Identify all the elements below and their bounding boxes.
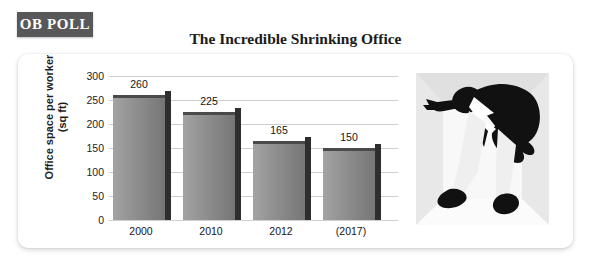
bar-group: 150(2017) [323,76,381,220]
bar-side-3d [165,91,171,220]
y-tick-label: 50 [64,190,104,202]
bar-value-label: 225 [183,95,235,107]
y-tick-label: 250 [64,94,104,106]
infographic-screen: OB POLL The Incredible Shrinking Office … [0,0,591,271]
bar-value-label: 150 [323,131,375,143]
y-tick-label: 200 [64,118,104,130]
bar-group: 2602000 [113,76,171,220]
bar-side-3d [305,137,311,220]
plot-area: 3002502001501005002602000225201016520121… [109,76,398,220]
office-illustration [412,67,553,235]
x-tick-label: 2000 [109,225,173,237]
poll-badge: OB POLL [17,12,93,37]
x-tick-label: 2010 [179,225,243,237]
y-tick-label: 100 [64,166,104,178]
x-tick-label: (2017) [319,225,383,237]
bar-side-3d [235,108,241,220]
bar-group: 1652012 [253,76,311,220]
y-tick-label: 0 [64,214,104,226]
bar-side-3d [375,144,381,220]
bar-value-label: 165 [253,124,305,136]
bar-2012 [253,141,305,220]
gridline [109,220,398,221]
bar-2000 [113,95,165,220]
chart-card: Office space per worker (sq ft) 30025020… [18,54,573,248]
y-tick-label: 150 [64,142,104,154]
y-axis-title-line1: Office space per worker [43,42,56,192]
bar-group: 2252010 [183,76,241,220]
bar-value-label: 260 [113,78,165,90]
y-tick-label: 300 [64,70,104,82]
bar-2017 [323,148,375,220]
x-tick-label: 2012 [249,225,313,237]
poll-badge-label: OB POLL [20,16,90,33]
bar-2010 [183,112,235,220]
